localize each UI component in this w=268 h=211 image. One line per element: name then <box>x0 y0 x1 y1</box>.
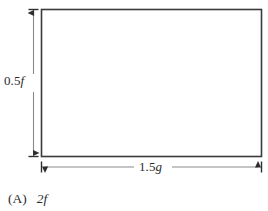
answer-choice-tag: (A) <box>8 191 27 207</box>
width-dimension-label: 1.5g <box>136 160 165 173</box>
height-label-number: 0.5 <box>4 73 21 88</box>
height-dimension-label: 0.5f <box>4 74 24 87</box>
figure-root: 0.5f 1.5g (A) 2f <box>0 0 268 211</box>
height-label-variable: f <box>21 73 25 88</box>
answer-choice-text: 2f <box>37 191 48 207</box>
width-label-number: 1.5 <box>139 159 156 174</box>
rectangle-shape <box>42 10 262 157</box>
width-label-variable: g <box>156 159 163 174</box>
rectangle-diagram <box>0 0 268 180</box>
answer-choice-a[interactable]: (A) 2f <box>8 191 47 207</box>
